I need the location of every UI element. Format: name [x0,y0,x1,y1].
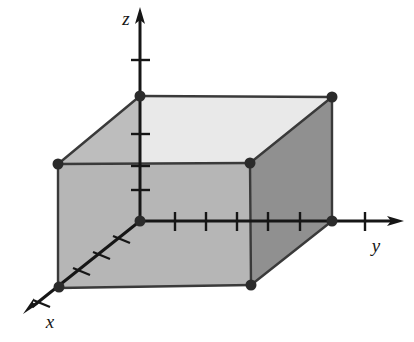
vertex-dot-front-top-right [245,158,256,169]
box-face-front [58,163,251,288]
vertex-dot-front-bottom-right [246,280,257,291]
figure-canvas: z y x [0,0,414,342]
vertex-dot-back-top-right [327,92,338,103]
vertex-dot-front-top-left [53,159,64,170]
vertex-dot-z-axis [135,91,146,102]
coordinate-box-diagram: z y x [0,0,414,342]
vertex-dot-y-axis [327,216,338,227]
edge-top-front [58,163,250,164]
vertex-dot-origin [135,216,146,227]
edge-top-back [140,96,332,97]
edge-vert-front-right [250,163,251,285]
vertex-dot-x-axis [54,282,65,293]
y-axis-label: y [370,235,381,256]
z-axis-label: z [121,8,130,29]
box-faces [58,96,332,288]
x-axis-label: x [45,311,55,332]
